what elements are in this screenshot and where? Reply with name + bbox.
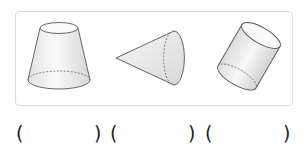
- answer-1-open-paren: (: [16, 122, 23, 144]
- frustum-shape: [24, 18, 94, 98]
- answer-3-close-paren: ): [283, 122, 290, 144]
- answer-2-close-paren: ): [188, 122, 195, 144]
- answer-3-open-paren: (: [205, 122, 212, 144]
- cone-shape: [112, 24, 192, 90]
- cylinder-shape: [212, 18, 284, 98]
- answer-2-open-paren: (: [110, 122, 117, 144]
- answer-1-close-paren: ): [94, 122, 101, 144]
